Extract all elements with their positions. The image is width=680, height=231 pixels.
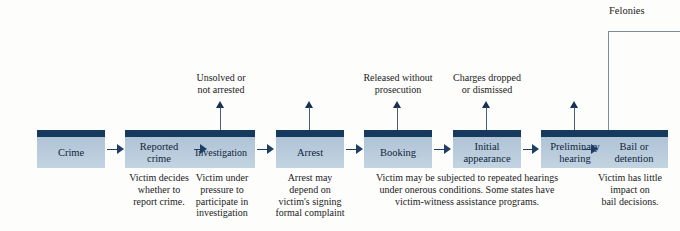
caption-investigation: Victim under pressure to participate in … xyxy=(178,172,266,219)
exit-arrow-arrest xyxy=(305,101,314,131)
process-node-arrest[interactable]: Arrest xyxy=(276,130,344,168)
process-node-label: Crime xyxy=(37,137,105,168)
process-node-initial-appearance[interactable]: Initial appearance xyxy=(453,130,521,168)
process-node-reported-crime[interactable]: Reported crime xyxy=(125,130,193,168)
node-cap-bar xyxy=(541,130,609,137)
arrow-shaft xyxy=(397,107,398,131)
arrowhead-right-icon xyxy=(356,144,363,154)
arrow-shaft xyxy=(220,107,221,131)
exit-arrow-investigation xyxy=(216,101,225,131)
flow-arrow-booking-to-initial-appearance xyxy=(434,144,451,155)
arrowhead-right-icon xyxy=(591,144,598,154)
arrowhead-right-icon xyxy=(200,144,207,154)
arrow-shaft xyxy=(574,107,575,131)
caption-middle-stages: Victim may be subjected to repeated hear… xyxy=(352,172,582,207)
node-cap-bar xyxy=(187,130,255,137)
process-node-crime[interactable]: Crime xyxy=(37,130,105,168)
node-cap-bar xyxy=(364,130,432,137)
flow-arrow-reported-crime-to-investigation xyxy=(194,144,207,155)
arrowhead-right-icon xyxy=(532,144,539,154)
process-node-label: Booking xyxy=(364,137,432,168)
arrowhead-right-icon xyxy=(444,144,451,154)
process-node-preliminary-hearing[interactable]: Preliminary hearing xyxy=(541,130,609,168)
exit-arrow-booking xyxy=(393,101,402,131)
process-node-label: Preliminary hearing xyxy=(541,137,609,168)
caption-arrest: Arrest may depend on victim's signing fo… xyxy=(258,172,362,219)
arrowhead-right-icon xyxy=(117,144,124,154)
process-node-label: Reported crime xyxy=(125,137,193,168)
flow-arrow-crime-to-reported-crime xyxy=(107,144,124,155)
process-node-bail-or-detention[interactable]: Bail or detention xyxy=(600,130,668,168)
node-cap-bar xyxy=(600,130,668,137)
exit-arrow-preliminary-hearing xyxy=(570,101,579,131)
node-cap-bar xyxy=(37,130,105,137)
flow-arrow-investigation-to-arrest xyxy=(257,144,274,155)
process-node-label: Arrest xyxy=(276,137,344,168)
arrow-shaft xyxy=(486,107,487,131)
node-cap-bar xyxy=(453,130,521,137)
node-cap-bar xyxy=(125,130,193,137)
flowchart-canvas: Felonies Unsolved or not arrested Releas… xyxy=(0,0,680,231)
flow-arrow-arrest-to-booking xyxy=(346,144,363,155)
arrow-shaft xyxy=(309,107,310,131)
process-node-label: Initial appearance xyxy=(453,137,521,168)
exit-note-charges-dropped-dismissed: Charges dropped or dismissed xyxy=(427,72,547,95)
exit-note-unsolved-not-arrested: Unsolved or not arrested xyxy=(161,72,281,95)
felonies-branch-label: Felonies xyxy=(609,5,645,17)
process-node-booking[interactable]: Booking xyxy=(364,130,432,168)
flow-arrow-initial-appearance-to-preliminary-hearing xyxy=(523,144,539,155)
node-cap-bar xyxy=(276,130,344,137)
process-node-label: Bail or detention xyxy=(600,137,668,168)
arrowhead-right-icon xyxy=(267,144,274,154)
felonies-branch-vertical-line xyxy=(608,31,609,132)
flow-arrow-preliminary-hearing-to-bail xyxy=(582,144,598,155)
caption-bail: Victim has little impact on bail decisio… xyxy=(580,172,680,207)
felonies-branch-horizontal-line xyxy=(608,31,680,32)
exit-arrow-initial-appearance xyxy=(482,101,491,131)
